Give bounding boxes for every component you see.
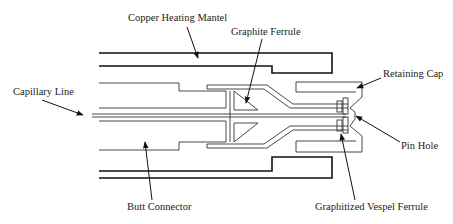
capillary-line bbox=[92, 114, 346, 117]
label-copper-heating-mantel: Copper Heating Mantel bbox=[128, 12, 227, 23]
diagram-canvas: Copper Heating Mantel Graphite Ferrule R… bbox=[0, 0, 453, 224]
label-butt-connector: Butt Connector bbox=[127, 201, 192, 212]
arrow-graphitized-vespel-ferrule bbox=[341, 134, 355, 200]
label-capillary-line: Capillary Line bbox=[13, 86, 74, 97]
pin-hole bbox=[350, 108, 355, 126]
graphitized-vespel-ferrule bbox=[337, 98, 348, 133]
butt-connector bbox=[99, 83, 226, 150]
arrow-graphite-ferrule bbox=[246, 39, 262, 103]
arrow-capillary-line bbox=[42, 100, 83, 115]
graphite-ferrule bbox=[230, 91, 258, 142]
copper-heating-mantel bbox=[99, 53, 332, 178]
label-retaining-cap: Retaining Cap bbox=[383, 68, 443, 79]
arrow-pin-hole bbox=[356, 116, 400, 142]
label-pin-hole: Pin Hole bbox=[401, 140, 438, 151]
label-graphite-ferrule: Graphite Ferrule bbox=[231, 26, 301, 37]
arrow-retaining-cap bbox=[357, 78, 381, 88]
label-graphitized-vespel-ferrule: Graphitized Vespel Ferrule bbox=[315, 201, 428, 212]
